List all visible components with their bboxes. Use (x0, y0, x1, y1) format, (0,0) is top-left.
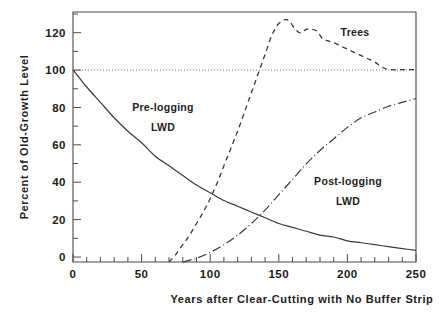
y-tick-label: 60 (52, 139, 66, 151)
y-axis-minor-ticks (73, 14, 78, 238)
x-tick-label: 50 (135, 268, 149, 280)
pre-logging-label-line1: Pre-logging (132, 101, 194, 113)
x-tick-label: 250 (406, 268, 427, 280)
trees-label: Trees (341, 26, 370, 38)
series-trees (169, 20, 416, 262)
x-tick-label: 100 (200, 268, 221, 280)
chart-plot-area: 120 100 80 60 40 20 0 0 50 100 150 200 2… (0, 0, 447, 320)
x-axis-title: Years after Clear-Cutting with No Buffer… (171, 293, 434, 305)
pre-logging-label-line2: LWD (151, 121, 175, 133)
post-logging-label-line1: Post-logging (314, 175, 382, 187)
x-tick-label: 200 (337, 268, 358, 280)
y-axis-title: Percent of Old-Growth Level (18, 55, 30, 220)
series-pre-logging-lwd (73, 70, 416, 251)
x-axis-major-ticks (73, 254, 416, 262)
chart-figure: 120 100 80 60 40 20 0 0 50 100 150 200 2… (0, 0, 447, 320)
annotation-post-logging-lwd: Post-logging LWD (314, 175, 382, 207)
annotation-trees: Trees (341, 26, 370, 38)
x-tick-label: 150 (268, 268, 289, 280)
y-tick-label: 80 (52, 102, 66, 114)
post-logging-label-line2: LWD (336, 195, 360, 207)
annotation-pre-logging-lwd: Pre-logging LWD (132, 101, 194, 133)
axis-frame (73, 12, 416, 262)
y-tick-label: 20 (52, 214, 66, 226)
x-axis-minor-ticks (87, 257, 403, 262)
x-tick-labels: 0 50 100 150 200 250 (70, 268, 427, 280)
y-tick-label: 0 (59, 251, 66, 263)
y-tick-label: 40 (52, 176, 66, 188)
x-tick-label: 0 (70, 268, 77, 280)
y-tick-label: 100 (45, 64, 66, 76)
y-tick-label: 120 (45, 27, 66, 39)
y-tick-labels: 120 100 80 60 40 20 0 (45, 27, 66, 263)
y-axis-major-ticks (73, 33, 81, 257)
